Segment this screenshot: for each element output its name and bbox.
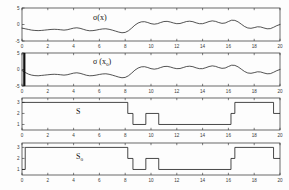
x-tick-label: 4 — [72, 178, 75, 183]
series-S — [22, 102, 280, 124]
x-tick-label: 0 — [21, 44, 24, 49]
y-tick-label: 1 — [17, 122, 20, 127]
x-tick-label: 18 — [252, 178, 258, 183]
x-tick-label: 6 — [98, 44, 101, 49]
x-tick-label: 8 — [124, 44, 127, 49]
y-tick-label: 2 — [17, 111, 20, 116]
x-tick-label: 2 — [47, 89, 50, 94]
y-tick-label: -5 — [15, 39, 20, 44]
x-tick-label: 12 — [174, 178, 180, 183]
y-tick-label: 0 — [17, 22, 20, 27]
x-tick-label: 10 — [148, 133, 154, 138]
y-tick-label: -5 — [15, 84, 20, 89]
panel-label-1: σ (xo) — [93, 57, 112, 67]
x-tick-label: 0 — [21, 178, 24, 183]
y-tick-label: 3 — [17, 145, 20, 150]
x-tick-label: 14 — [200, 133, 206, 138]
panel-label-0: σ(x) — [93, 13, 107, 22]
x-tick-label: 12 — [174, 44, 180, 49]
x-tick-label: 16 — [226, 178, 232, 183]
x-tick-label: 0 — [21, 133, 24, 138]
x-tick-label: 0 — [21, 89, 24, 94]
panel-1: 02468101214161820-505σ (xo) — [15, 51, 283, 94]
x-tick-label: 16 — [226, 133, 232, 138]
panel-0: 02468101214161820-505σ(x) — [15, 6, 283, 49]
series-sigma_x0 — [22, 65, 280, 78]
x-tick-label: 20 — [277, 133, 283, 138]
x-tick-label: 4 — [72, 133, 75, 138]
panel-label-tail: ) — [109, 57, 112, 66]
y-tick-label: 5 — [17, 6, 20, 11]
x-tick-label: 14 — [200, 178, 206, 183]
y-tick-label: 1 — [17, 167, 20, 172]
x-tick-label: 10 — [148, 178, 154, 183]
x-tick-label: 12 — [174, 89, 180, 94]
x-tick-label: 18 — [252, 44, 258, 49]
x-tick-label: 12 — [174, 133, 180, 138]
panel-label-3: So — [76, 152, 83, 162]
x-tick-label: 8 — [124, 133, 127, 138]
x-tick-label: 18 — [252, 133, 258, 138]
panel-3: 02468101214161820123So — [17, 143, 283, 183]
x-tick-label: 18 — [252, 89, 258, 94]
x-tick-label: 8 — [124, 178, 127, 183]
x-tick-label: 14 — [200, 89, 206, 94]
x-tick-label: 10 — [148, 89, 154, 94]
panel-label-sub: o — [80, 156, 83, 162]
y-tick-label: 3 — [17, 100, 20, 105]
series-S_o — [22, 147, 280, 169]
x-tick-label: 6 — [98, 133, 101, 138]
series-sigma_x — [22, 20, 280, 33]
y-tick-label: 0 — [17, 67, 20, 72]
x-tick-label: 6 — [98, 89, 101, 94]
x-tick-label: 8 — [124, 89, 127, 94]
x-tick-label: 16 — [226, 44, 232, 49]
x-tick-label: 6 — [98, 178, 101, 183]
x-tick-label: 14 — [200, 44, 206, 49]
y-tick-label: 2 — [17, 156, 20, 161]
x-tick-label: 20 — [277, 178, 283, 183]
figure-canvas: 02468101214161820-505σ(x)024681012141618… — [0, 0, 289, 190]
multi-panel-plot: 02468101214161820-505σ(x)024681012141618… — [0, 0, 289, 190]
x-tick-label: 2 — [47, 133, 50, 138]
x-tick-label: 2 — [47, 44, 50, 49]
x-tick-label: 2 — [47, 178, 50, 183]
x-tick-label: 16 — [226, 89, 232, 94]
panel-label-2: S — [76, 107, 80, 116]
x-tick-label: 4 — [72, 89, 75, 94]
x-tick-label: 10 — [148, 44, 154, 49]
x-tick-label: 20 — [277, 44, 283, 49]
y-tick-label: 5 — [17, 51, 20, 56]
panel-2: 02468101214161820123S — [17, 98, 283, 138]
x-tick-label: 4 — [72, 44, 75, 49]
x-tick-label: 20 — [277, 89, 283, 94]
